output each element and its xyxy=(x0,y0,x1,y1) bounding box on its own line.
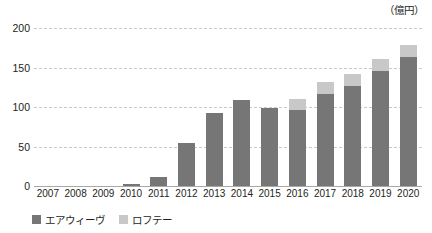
x-tick-label: 2017 xyxy=(311,188,339,202)
x-tick-label: 2012 xyxy=(173,188,201,202)
bars-container xyxy=(34,28,422,186)
x-tick-label: 2007 xyxy=(34,188,62,202)
unit-label: （億円） xyxy=(384,2,424,17)
plot-area xyxy=(34,28,422,186)
bar-segment-エアウィーヴ-2011[interactable] xyxy=(150,177,167,186)
bar-segment-ロフテー-2017[interactable] xyxy=(317,82,334,94)
bar-slot-2010[interactable] xyxy=(117,28,145,186)
bar-slot-2007[interactable] xyxy=(34,28,62,186)
bar-stack[interactable] xyxy=(233,100,250,186)
bar-stack[interactable] xyxy=(317,82,334,186)
bar-segment-ロフテー-2016[interactable] xyxy=(289,99,306,110)
bar-segment-エアウィーヴ-2016[interactable] xyxy=(289,110,306,186)
x-tick-label: 2008 xyxy=(62,188,90,202)
bar-slot-2016[interactable] xyxy=(283,28,311,186)
bar-segment-エアウィーヴ-2015[interactable] xyxy=(261,108,278,186)
stacked-bar-chart: （億円） 050100150200 2007200820092010201120… xyxy=(0,0,432,233)
y-tick-label: 150 xyxy=(12,62,30,74)
legend-item[interactable]: エアウィーヴ xyxy=(32,212,105,227)
legend-swatch-icon xyxy=(32,215,41,224)
bar-slot-2018[interactable] xyxy=(339,28,367,186)
y-axis-labels: 050100150200 xyxy=(0,28,30,186)
bar-slot-2008[interactable] xyxy=(62,28,90,186)
bar-segment-エアウィーヴ-2017[interactable] xyxy=(317,94,334,186)
bar-stack[interactable] xyxy=(289,99,306,186)
legend-label: ロフテー xyxy=(132,212,172,227)
x-tick-label: 2020 xyxy=(394,188,422,202)
legend-item[interactable]: ロフテー xyxy=(119,212,172,227)
x-tick-label: 2011 xyxy=(145,188,173,202)
bar-slot-2015[interactable] xyxy=(256,28,284,186)
bar-stack[interactable] xyxy=(206,113,223,186)
bar-slot-2009[interactable] xyxy=(89,28,117,186)
bar-segment-ロフテー-2019[interactable] xyxy=(372,59,389,71)
x-tick-label: 2015 xyxy=(256,188,284,202)
y-tick-label: 50 xyxy=(18,141,30,153)
bar-slot-2017[interactable] xyxy=(311,28,339,186)
bar-segment-エアウィーヴ-2014[interactable] xyxy=(233,100,250,186)
bar-slot-2014[interactable] xyxy=(228,28,256,186)
legend-swatch-icon xyxy=(119,215,128,224)
bar-segment-ロフテー-2020[interactable] xyxy=(400,45,417,57)
bar-slot-2020[interactable] xyxy=(394,28,422,186)
bar-stack[interactable] xyxy=(344,74,361,186)
bar-segment-ロフテー-2018[interactable] xyxy=(344,74,361,86)
bar-slot-2012[interactable] xyxy=(173,28,201,186)
bar-slot-2011[interactable] xyxy=(145,28,173,186)
x-tick-label: 2016 xyxy=(283,188,311,202)
bar-stack[interactable] xyxy=(261,108,278,186)
bar-segment-エアウィーヴ-2018[interactable] xyxy=(344,86,361,186)
y-tick-label: 100 xyxy=(12,101,30,113)
bar-slot-2019[interactable] xyxy=(367,28,395,186)
legend: エアウィーヴロフテー xyxy=(32,212,172,227)
gridline-0 xyxy=(34,186,422,187)
x-tick-label: 2009 xyxy=(89,188,117,202)
bar-slot-2013[interactable] xyxy=(200,28,228,186)
bar-segment-エアウィーヴ-2012[interactable] xyxy=(178,143,195,186)
bar-segment-エアウィーヴ-2019[interactable] xyxy=(372,71,389,186)
bar-stack[interactable] xyxy=(372,59,389,186)
bar-stack[interactable] xyxy=(400,45,417,186)
x-tick-label: 2013 xyxy=(200,188,228,202)
bar-segment-エアウィーヴ-2020[interactable] xyxy=(400,57,417,186)
bar-segment-エアウィーヴ-2013[interactable] xyxy=(206,113,223,186)
y-tick-label: 200 xyxy=(12,22,30,34)
x-axis-labels: 2007200820092010201120122013201420152016… xyxy=(34,188,422,202)
bar-segment-エアウィーヴ-2010[interactable] xyxy=(123,184,140,186)
x-tick-label: 2018 xyxy=(339,188,367,202)
y-tick-label: 0 xyxy=(24,180,30,192)
x-tick-label: 2019 xyxy=(367,188,395,202)
x-tick-label: 2010 xyxy=(117,188,145,202)
bar-stack[interactable] xyxy=(123,184,140,186)
x-tick-label: 2014 xyxy=(228,188,256,202)
legend-label: エアウィーヴ xyxy=(45,212,105,227)
bar-stack[interactable] xyxy=(150,177,167,186)
bar-stack[interactable] xyxy=(178,143,195,186)
